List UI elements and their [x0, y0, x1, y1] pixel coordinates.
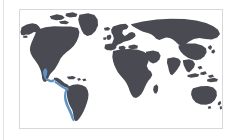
- figure-page: [0, 0, 236, 140]
- page-left-rule: [3, 0, 4, 140]
- world-map-svg: [20, 10, 222, 128]
- world-map-figure-frame: [19, 9, 223, 129]
